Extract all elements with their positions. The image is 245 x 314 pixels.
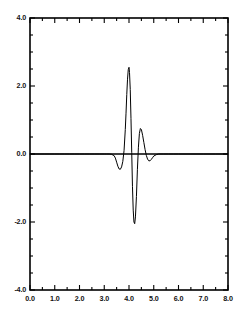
x-tick-label: 2.0 (75, 295, 84, 302)
x-tick-label: 6.0 (174, 295, 183, 302)
x-tick-label: 3.0 (100, 295, 109, 302)
x-tick-label: 5.0 (149, 295, 158, 302)
x-tick-label: 1.0 (50, 295, 59, 302)
y-tick-label: 4.0 (2, 14, 26, 21)
plot-canvas (0, 0, 245, 314)
y-tick-label: -2.0 (2, 218, 26, 225)
y-tick-label: -4.0 (2, 286, 26, 293)
x-tick-label: 7.0 (199, 295, 208, 302)
x-tick-label: 0.0 (25, 295, 34, 302)
x-tick-label: 4.0 (124, 295, 133, 302)
y-tick-label: 0.0 (2, 150, 26, 157)
figure: 0.01.02.03.04.05.06.07.08.0 -4.0-2.00.02… (0, 0, 245, 314)
x-tick-label: 8.0 (223, 295, 232, 302)
y-tick-label: 2.0 (2, 82, 26, 89)
